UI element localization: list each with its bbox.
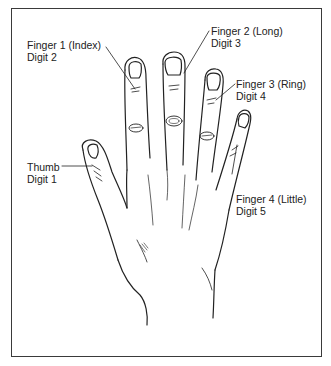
- label-thumb-line2: Digit 1: [27, 173, 60, 185]
- label-thumb: Thumb Digit 1: [27, 161, 60, 185]
- label-little-line2: Digit 5: [236, 205, 307, 217]
- label-ring-line1: Finger 3 (Ring): [236, 78, 306, 90]
- palm-drawing: [118, 170, 229, 325]
- label-little-line1: Finger 4 (Little): [236, 193, 307, 205]
- ring-finger-drawing: [196, 69, 223, 180]
- label-thumb-line1: Thumb: [27, 161, 60, 173]
- long-finger-drawing: [163, 52, 185, 170]
- label-long-finger: Finger 2 (Long) Digit 3: [211, 25, 283, 49]
- index-finger-drawing: [125, 58, 150, 171]
- label-index-line2: Digit 2: [27, 51, 101, 63]
- label-ring-line2: Digit 4: [236, 90, 306, 102]
- leader-long: [184, 31, 209, 73]
- label-index-line1: Finger 1 (Index): [27, 39, 101, 51]
- label-ring-finger: Finger 3 (Ring) Digit 4: [236, 78, 306, 102]
- label-little-finger: Finger 4 (Little) Digit 5: [236, 193, 307, 217]
- label-long-line2: Digit 3: [211, 37, 283, 49]
- thumb-drawing: [82, 140, 127, 260]
- label-index-finger: Finger 1 (Index) Digit 2: [27, 39, 101, 63]
- leader-index: [106, 47, 135, 89]
- label-long-line1: Finger 2 (Long): [211, 25, 283, 37]
